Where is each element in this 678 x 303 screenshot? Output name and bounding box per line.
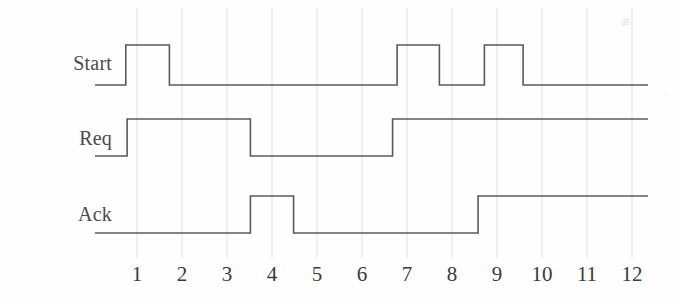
- tick-label-9: 9: [492, 262, 503, 287]
- tick-label-4: 4: [267, 262, 278, 287]
- waveform-start: [95, 45, 648, 85]
- tick-label-10: 10: [532, 262, 553, 287]
- tick-label-12: 12: [622, 262, 643, 287]
- signal-label-start: Start: [0, 52, 112, 75]
- timing-diagram-canvas: [0, 0, 678, 303]
- tick-label-8: 8: [447, 262, 458, 287]
- waveforms-group: [95, 45, 648, 233]
- signal-label-ack: Ack: [0, 203, 112, 226]
- gridlines-group: [137, 8, 632, 258]
- tick-label-2: 2: [177, 262, 188, 287]
- waveform-ack: [95, 196, 648, 233]
- waveform-req: [95, 119, 648, 156]
- signal-label-req: Req: [0, 127, 112, 150]
- tick-label-3: 3: [222, 262, 233, 287]
- tick-label-7: 7: [402, 262, 413, 287]
- tick-label-5: 5: [312, 262, 323, 287]
- tick-label-1: 1: [132, 262, 143, 287]
- tick-label-11: 11: [577, 262, 597, 287]
- timing-diagram-figure: Start Req Ack 123456789101112 ≇ ·: [0, 0, 678, 303]
- tick-label-6: 6: [357, 262, 368, 287]
